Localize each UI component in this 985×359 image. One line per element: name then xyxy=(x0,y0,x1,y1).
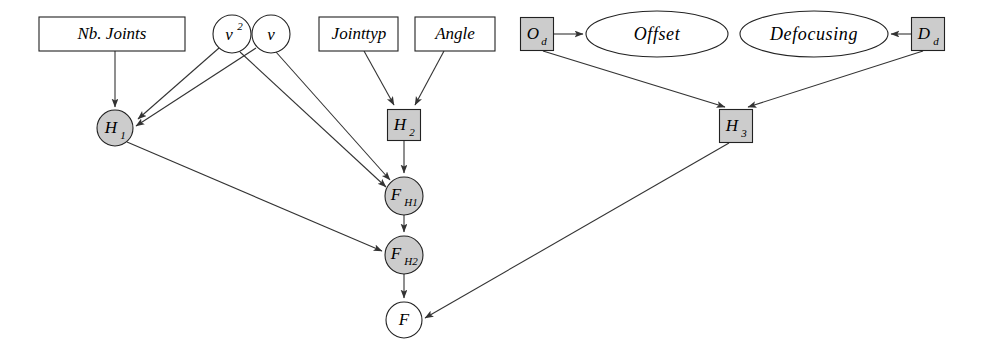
node-od-subscript: d xyxy=(541,35,547,47)
node-v-squared-label: v xyxy=(225,25,233,44)
node-od-label: O xyxy=(527,24,539,43)
node-fh2-subscript: H2 xyxy=(403,255,418,267)
node-h2-label: H xyxy=(393,115,408,134)
node-fh2[interactable]: F H2 xyxy=(385,236,423,274)
edge-v-h1 xyxy=(136,48,256,126)
node-f[interactable]: F xyxy=(386,302,422,338)
node-layer: Nb. Joints v 2 v Jointtyp Angle xyxy=(39,11,945,338)
node-fh1[interactable]: F H1 xyxy=(385,177,423,215)
node-h3-subscript: 3 xyxy=(740,127,747,139)
edge-jointtyp-h2 xyxy=(364,51,394,105)
edge-v2-fh1 xyxy=(240,52,386,187)
node-od[interactable]: O d xyxy=(521,18,554,51)
node-v-label: v xyxy=(267,25,275,44)
node-fh1-label: F xyxy=(390,185,402,204)
node-h3-label: H xyxy=(725,116,740,135)
edge-dd-h3 xyxy=(748,51,923,107)
node-nb-joints-label: Nb. Joints xyxy=(77,24,147,43)
node-dd-label: D xyxy=(917,24,931,43)
node-jointtyp-label: Jointtyp xyxy=(332,24,387,43)
node-v-squared-exponent: 2 xyxy=(237,20,243,32)
node-offset[interactable]: Offset xyxy=(586,11,728,57)
node-angle-label: Angle xyxy=(434,24,475,43)
node-fh2-label: F xyxy=(390,244,402,263)
node-defocusing[interactable]: Defocusing xyxy=(740,11,888,57)
node-h1[interactable]: H 1 xyxy=(97,110,133,146)
node-angle[interactable]: Angle xyxy=(415,17,495,51)
node-jointtyp[interactable]: Jointtyp xyxy=(319,17,398,51)
node-nb-joints[interactable]: Nb. Joints xyxy=(39,17,185,51)
node-f-label: F xyxy=(398,310,410,329)
node-dd[interactable]: D d xyxy=(912,18,945,51)
node-fh1-subscript: H1 xyxy=(403,196,417,208)
node-v-squared[interactable]: v 2 xyxy=(213,15,251,53)
node-defocusing-label: Defocusing xyxy=(769,24,858,44)
edge-od-h3 xyxy=(543,51,725,107)
node-h2[interactable]: H 2 xyxy=(388,110,421,141)
network-graph-canvas: Nb. Joints v 2 v Jointtyp Angle xyxy=(0,0,985,359)
node-h3[interactable]: H 3 xyxy=(720,110,753,143)
edge-layer xyxy=(115,34,923,318)
node-dd-subscript: d xyxy=(933,35,939,47)
edge-v2-h1 xyxy=(138,48,219,119)
edge-v-fh1 xyxy=(276,52,390,180)
edge-h3-f xyxy=(425,143,729,318)
bayesian-network-diagram: Nb. Joints v 2 v Jointtyp Angle xyxy=(0,0,985,359)
node-v[interactable]: v xyxy=(252,15,290,53)
node-offset-label: Offset xyxy=(634,24,681,44)
node-h1-label: H xyxy=(104,118,119,137)
edge-angle-h2 xyxy=(415,51,444,105)
node-h2-subscript: 2 xyxy=(409,126,415,138)
edge-h1-fh2 xyxy=(127,142,382,251)
node-h1-subscript: 1 xyxy=(120,129,126,141)
